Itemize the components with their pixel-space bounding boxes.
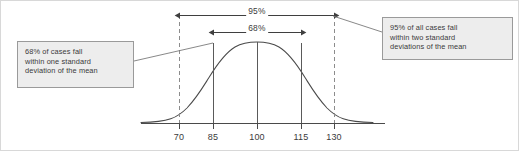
span-label-68: 68% [246,23,268,33]
axis-label-130: 130 [326,132,342,142]
axis-label-70: 70 [174,132,184,142]
axis-label-100: 100 [249,132,265,142]
axis-label-85: 85 [208,132,218,142]
span-label-95: 95% [246,6,268,16]
normal-distribution-figure: 95% 68% 70 85 100 115 130 68% of cases f… [0,0,519,151]
leader-line-right [333,16,382,32]
callout-one-std-dev: 68% of cases fall within one standard de… [17,41,134,88]
callout-two-std-dev: 95% of all cases fall within two standar… [382,17,513,60]
leader-line-left [134,43,213,61]
axis-label-115: 115 [294,132,309,142]
